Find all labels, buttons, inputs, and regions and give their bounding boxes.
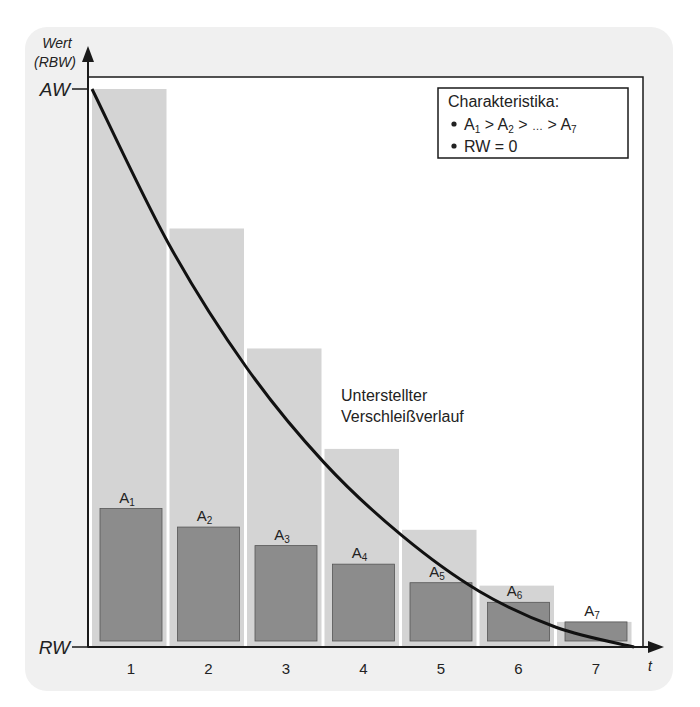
- depreciation-bar: [255, 546, 317, 641]
- depreciation-bar: [100, 509, 162, 641]
- x-tick-label: 2: [204, 660, 212, 677]
- legend-bullet-icon: [451, 143, 456, 148]
- legend-title: Charakteristika:: [448, 93, 559, 110]
- y-axis-title-line2: (RBW): [34, 54, 76, 70]
- legend-item-2: RW = 0: [464, 138, 518, 155]
- x-tick-label: 3: [282, 660, 290, 677]
- x-tick-label: 6: [514, 660, 522, 677]
- legend-bullet-icon: [451, 121, 456, 126]
- x-tick-label: 4: [359, 660, 367, 677]
- x-tick-label: 7: [592, 660, 600, 677]
- curve-annotation-line1: Unterstellter: [341, 387, 428, 404]
- y-axis-title-line1: Wert: [42, 35, 72, 51]
- rw-tick-label: RW: [39, 637, 72, 658]
- legend-item-1: A1 > A2 > … > A7: [464, 116, 577, 135]
- depreciation-bar: [178, 527, 240, 641]
- x-tick-label: 1: [127, 660, 135, 677]
- aw-tick-label: AW: [39, 79, 72, 100]
- x-tick-label: 5: [437, 660, 445, 677]
- curve-annotation-line2: Verschleißverlauf: [341, 408, 464, 425]
- depreciation-bar: [410, 583, 472, 641]
- depreciation-bar: [333, 564, 395, 641]
- legend-box: Charakteristika: A1 > A2 > … > A7 RW = 0: [438, 88, 628, 158]
- declining-depreciation-chart: A1A2A3A4A5A6A7 Wert (RBW) AW RW t 123456…: [0, 0, 700, 707]
